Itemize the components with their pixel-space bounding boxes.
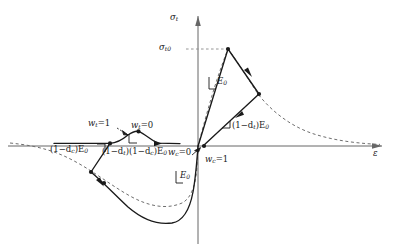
annotation-wc-equals-1: wc=1: [205, 155, 228, 164]
y-axis-arrowhead: [195, 16, 201, 26]
marker-compression-knee: [89, 170, 93, 174]
path-direction-arrows: [96, 67, 252, 186]
annotation-dc-E0: (1−dc)E0: [50, 145, 88, 154]
annotation-dt-E0: (1−dt)E0: [232, 121, 269, 130]
y-axis-label: σt: [170, 13, 178, 22]
axes-group: [8, 16, 382, 244]
arrow-tensile-softening: [244, 67, 252, 77]
annotation-E0-lower: E0: [180, 171, 190, 180]
segment-tensile-softening: [228, 49, 259, 94]
annotation-E0-upper: E0: [217, 77, 227, 86]
segment-compression-branch: [91, 146, 198, 223]
stress-strain-diagram: σt σt0 ε wt=1 wt=0 wc=0 wc=1 E0 E0 (1−dc…: [0, 0, 397, 252]
slope-triangle-group: [97, 77, 230, 183]
peak-stress-tick-label: σt0: [159, 43, 171, 52]
slope-triangle-E0-upper: [209, 77, 216, 89]
slope-triangle-dt-dc-E0: [129, 134, 137, 143]
marker-wc1: [202, 144, 206, 148]
x-axis-label: ε: [373, 149, 378, 158]
marker-tension-unload-start: [257, 92, 261, 96]
annotation-wc-equals-0: wc=0: [168, 148, 191, 157]
segment-tensile-reload-E0: [198, 49, 228, 146]
diagram-canvas: [0, 0, 397, 252]
marker-wt1: [108, 141, 112, 145]
marker-tensile-peak: [226, 47, 230, 51]
marker-compression-path: [102, 181, 106, 185]
cyclic-loading-path: [54, 49, 259, 223]
segment-tension-hump: [110, 131, 180, 143]
annotation-dt-dc-E0: (1−dt)(1−dc)E0: [102, 147, 167, 156]
annotation-wt-equals-0: wt=0: [131, 121, 153, 130]
annotation-wt-equals-1: wt=1: [88, 119, 110, 128]
